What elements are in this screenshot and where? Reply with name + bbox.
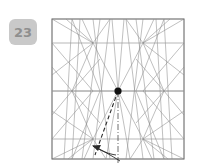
crease-pattern-svg xyxy=(48,15,188,163)
diagram-page: 23 xyxy=(0,0,200,168)
step-number-label: 23 xyxy=(14,26,32,39)
center-reference-dot xyxy=(114,87,121,94)
crease-pattern-diagram xyxy=(48,15,188,163)
step-number-badge: 23 xyxy=(9,19,37,45)
